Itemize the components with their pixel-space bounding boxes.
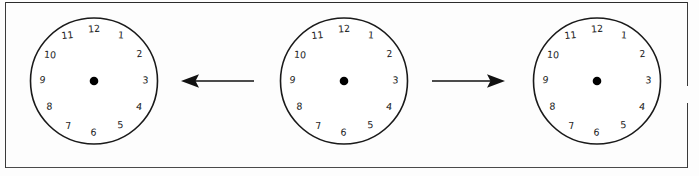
clock-numeral-12: 12 (591, 23, 604, 35)
clock-numeral-7: 7 (568, 120, 575, 131)
clock-center-hub (593, 77, 602, 86)
clock-numeral-11: 11 (311, 29, 324, 41)
arrow-svg (180, 68, 256, 94)
clock-numeral-1: 1 (368, 29, 375, 40)
clock-numeral-2: 2 (639, 48, 646, 60)
page-rule-bottom (5, 167, 688, 168)
clock-numeral-8: 8 (46, 100, 52, 111)
clock-numeral-6: 6 (90, 126, 97, 137)
clock-numeral-11: 11 (61, 29, 74, 41)
clock-numeral-8: 8 (549, 100, 555, 111)
clock-numeral-3: 3 (645, 74, 652, 85)
clock-numeral-11: 11 (564, 29, 577, 41)
clock-numeral-5: 5 (367, 119, 374, 130)
arrow-svg (430, 68, 506, 94)
clock-numeral-6: 6 (593, 126, 600, 137)
clock-numeral-1: 1 (621, 29, 628, 40)
clock-numeral-7: 7 (315, 120, 322, 131)
clock-numeral-1: 1 (118, 29, 125, 40)
clock-numeral-10: 10 (547, 48, 560, 60)
clock-numeral-6: 6 (340, 126, 347, 137)
clock-face-middle[interactable]: 121234567891011 (277, 14, 411, 148)
clock-svg: 121234567891011 (530, 14, 664, 148)
page-rule-left (5, 2, 6, 168)
clock-numeral-3: 3 (392, 74, 399, 85)
clock-numeral-8: 8 (296, 100, 302, 111)
clock-numeral-3: 3 (142, 74, 149, 85)
clock-numeral-7: 7 (65, 120, 72, 131)
page-rule-right-lower (687, 103, 688, 168)
clock-numeral-12: 12 (338, 23, 351, 35)
clock-numeral-9: 9 (289, 74, 296, 85)
clock-numeral-5: 5 (620, 119, 627, 130)
clock-numeral-2: 2 (386, 48, 393, 60)
clock-svg: 121234567891011 (277, 14, 411, 148)
clock-numeral-2: 2 (136, 48, 143, 60)
clock-numeral-5: 5 (117, 119, 124, 130)
clock-svg: 121234567891011 (27, 14, 161, 148)
clock-numeral-10: 10 (294, 48, 307, 60)
clock-center-hub (90, 77, 99, 86)
arrow-left-icon (180, 68, 256, 94)
page-rule-right-upper (687, 2, 688, 86)
clock-face-left[interactable]: 121234567891011 (27, 14, 161, 148)
clock-numeral-10: 10 (44, 48, 57, 60)
clock-numeral-9: 9 (39, 74, 46, 85)
clock-center-hub (340, 77, 349, 86)
worksheet-page: 121234567891011 121234567891011 12123456… (0, 0, 699, 176)
arrow-right-icon (430, 68, 506, 94)
page-rule-top (5, 2, 688, 3)
clock-numeral-9: 9 (542, 74, 549, 85)
clock-numeral-12: 12 (88, 23, 101, 35)
clock-face-right[interactable]: 121234567891011 (530, 14, 664, 148)
